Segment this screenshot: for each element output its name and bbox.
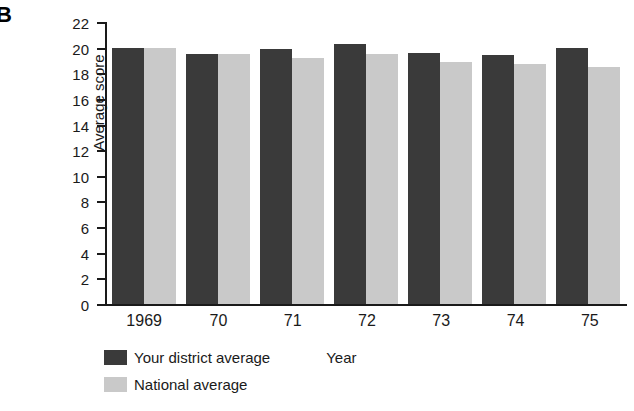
y-axis-title: Average score	[90, 23, 107, 183]
y-axis-tick: 4	[97, 253, 107, 255]
bar-group	[551, 22, 625, 304]
bar-district	[556, 48, 588, 304]
y-axis-tick: 8	[97, 201, 107, 203]
y-axis-tick-label: 2	[81, 271, 89, 288]
bar-group	[477, 22, 551, 304]
bar-group	[329, 22, 403, 304]
bar-national	[218, 54, 250, 304]
x-axis-tick-label: 75	[553, 312, 627, 330]
x-axis-title: Year	[326, 349, 356, 366]
y-axis-tick: 18	[97, 73, 107, 75]
bar-groups	[107, 22, 625, 304]
y-axis-tick-label: 20	[72, 40, 89, 57]
panel-letter: B	[0, 4, 11, 26]
y-axis-tick: 12	[97, 150, 107, 152]
bar-district	[260, 49, 292, 304]
x-axis-tick-label: 72	[330, 312, 404, 330]
y-axis-tick: 20	[97, 48, 107, 50]
x-axis-line	[105, 304, 627, 306]
y-axis-tick: 10	[97, 176, 107, 178]
bar-national	[144, 48, 176, 304]
bar-district	[408, 53, 440, 304]
bar-district	[334, 44, 366, 304]
y-axis-tick: 22	[97, 22, 107, 24]
legend-item-district: Your district average Year	[104, 344, 357, 371]
y-axis-tick-label: 4	[81, 245, 89, 262]
legend-swatch-district-icon	[104, 350, 127, 365]
y-axis-tick: 14	[97, 125, 107, 127]
bar-national	[588, 67, 620, 304]
bar-group	[255, 22, 329, 304]
legend-label-national: National average	[134, 376, 247, 393]
x-axis-tick-label: 73	[404, 312, 478, 330]
bar-national	[514, 64, 546, 304]
x-axis-tick-labels: 1969707172737475	[107, 312, 627, 330]
y-axis-tick: 0	[97, 304, 107, 306]
y-axis-tick-label: 16	[72, 91, 89, 108]
bar-national	[366, 54, 398, 304]
y-axis-tick-label: 22	[72, 15, 89, 32]
bar-group	[181, 22, 255, 304]
bar-national	[292, 58, 324, 304]
bar-district	[186, 54, 218, 304]
y-axis-tick-label: 14	[72, 117, 89, 134]
y-axis-tick: 2	[97, 278, 107, 280]
chart-legend: Your district average Year National aver…	[104, 344, 357, 398]
legend-swatch-national-icon	[104, 377, 127, 392]
y-axis-tick-label: 8	[81, 194, 89, 211]
y-axis-tick: 6	[97, 227, 107, 229]
x-axis-tick-label: 71	[256, 312, 330, 330]
legend-item-national: National average	[104, 371, 357, 398]
plot-area: 2220181614121086420	[105, 22, 625, 306]
x-axis-tick-label: 70	[181, 312, 255, 330]
y-axis-tick: 16	[97, 99, 107, 101]
bar-district	[112, 48, 144, 304]
y-axis-tick-label: 12	[72, 143, 89, 160]
bar-district	[482, 55, 514, 304]
x-axis-tick-label: 1969	[107, 312, 181, 330]
y-axis-tick-label: 6	[81, 220, 89, 237]
bar-group	[107, 22, 181, 304]
y-axis-tick-label: 0	[81, 297, 89, 314]
bar-group	[403, 22, 477, 304]
y-axis-tick-label: 18	[72, 66, 89, 83]
y-axis-tick-label: 10	[72, 168, 89, 185]
legend-label-district: Your district average	[134, 349, 270, 366]
bar-national	[440, 62, 472, 304]
x-axis-tick-label: 74	[478, 312, 552, 330]
